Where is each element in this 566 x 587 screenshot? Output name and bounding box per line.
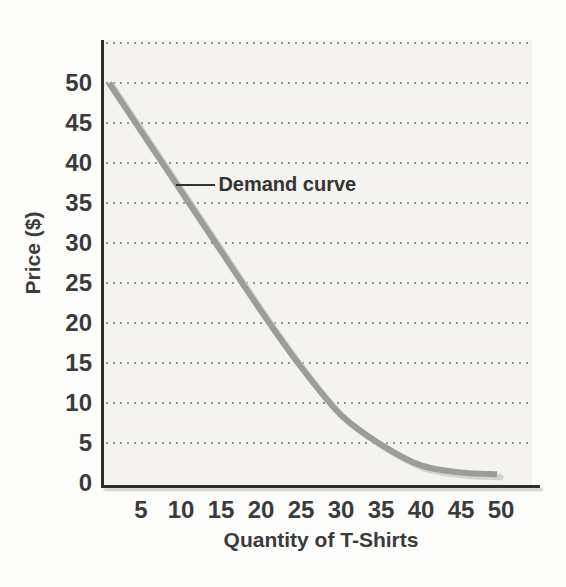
x-axis-title: Quantity of T-Shirts [101, 528, 541, 552]
x-axis-line [101, 485, 540, 488]
y-tick-label: 40 [30, 151, 92, 175]
x-tick-label: 50 [469, 498, 533, 522]
y-tick-label: 0 [30, 471, 92, 495]
y-tick-label: 20 [30, 311, 92, 335]
y-tick-label: 15 [30, 351, 92, 375]
y-axis-title: Price ($) [21, 212, 45, 295]
y-tick-label: 5 [30, 431, 92, 455]
demand-curve-figure: 05101520253035404550 5101520253035404550… [0, 0, 566, 587]
y-tick-label: 45 [30, 111, 92, 135]
demand-curve-shadow [113, 86, 501, 477]
y-axis-line [101, 40, 104, 487]
demand-curve-annotation: Demand curve [218, 173, 356, 196]
y-tick-label: 50 [30, 71, 92, 95]
demand-curve-line [109, 83, 497, 474]
y-tick-label: 10 [30, 391, 92, 415]
annotation-pointer-line [176, 184, 215, 186]
